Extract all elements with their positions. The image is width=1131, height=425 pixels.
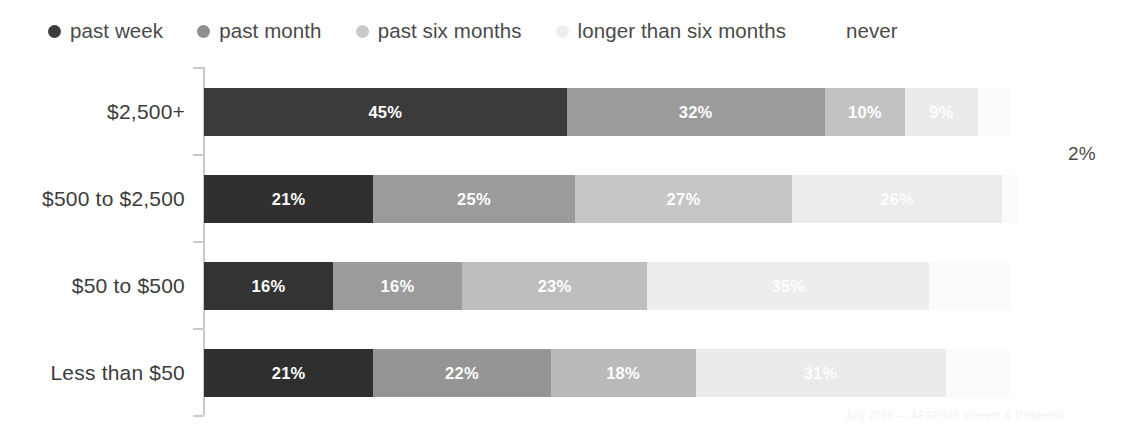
bar-segment-label: 32% xyxy=(679,104,713,121)
category-label: $500 to $2,500 xyxy=(42,175,185,223)
stacked-bar: 21%25%27%26%2% xyxy=(204,175,1018,223)
bar-segment[interactable]: 23% xyxy=(462,262,647,310)
bar-segment[interactable]: 31% xyxy=(696,349,946,397)
stacked-bar: 45%32%10%9%4% xyxy=(204,88,1010,136)
category-label: Less than $50 xyxy=(50,349,185,397)
axis-tick-mark xyxy=(193,415,204,417)
bar-segment[interactable]: 45% xyxy=(204,88,567,136)
legend-item-past-six-months[interactable]: past six months xyxy=(356,21,522,42)
bar-segment[interactable]: 25% xyxy=(373,175,575,223)
bar-segment[interactable]: 35% xyxy=(647,262,929,310)
category-label: $2,500+ xyxy=(107,88,185,136)
bar-segment[interactable]: 32% xyxy=(567,88,825,136)
bar-segment-label: 31% xyxy=(804,365,838,382)
bar-segment[interactable]: 18% xyxy=(551,349,696,397)
legend-item-label: past month xyxy=(219,21,321,42)
legend-swatch-icon xyxy=(356,25,369,38)
bar-segment-label: 22% xyxy=(445,365,479,382)
bar-segment-label: 21% xyxy=(272,191,306,208)
bar-segment-label: 25% xyxy=(457,191,491,208)
stacked-bar: 16%16%23%35%10% xyxy=(204,262,1010,310)
bar-segment-label: 16% xyxy=(380,278,414,295)
legend-item-past-month[interactable]: past month xyxy=(197,21,321,42)
bar-segment[interactable]: 21% xyxy=(204,349,373,397)
bar-segment-label: 35% xyxy=(771,278,805,295)
bar-segment[interactable]: 4% xyxy=(978,88,1010,136)
legend-item-label: longer than six months xyxy=(578,21,786,42)
bar-segment[interactable]: 27% xyxy=(575,175,793,223)
legend-item-past-week[interactable]: past week xyxy=(48,21,163,42)
bar-segment-label: 27% xyxy=(667,191,701,208)
bar-row: $500 to $2,50021%25%27%26%2%2% xyxy=(0,175,1131,223)
bar-segment-label: 21% xyxy=(272,365,306,382)
bar-segment-label: 45% xyxy=(368,104,402,121)
bar-segment[interactable]: 21% xyxy=(204,175,373,223)
bar-segment-label: 9% xyxy=(929,104,953,121)
bar-segment[interactable]: 8% xyxy=(946,349,1010,397)
legend-item-never[interactable]: never xyxy=(846,21,898,42)
bar-row: $50 to $50016%16%23%35%10% xyxy=(0,262,1131,310)
chart-plot-area: $2,500+45%32%10%9%4%$500 to $2,50021%25%… xyxy=(0,62,1131,412)
bar-segment[interactable]: 16% xyxy=(204,262,333,310)
bar-segment-label: 23% xyxy=(538,278,572,295)
chart-legend: past weekpast monthpast six monthslonger… xyxy=(0,10,1131,52)
bar-segment[interactable]: 10% xyxy=(929,262,1010,310)
bar-segment[interactable]: 26% xyxy=(792,175,1002,223)
axis-tick-mark xyxy=(193,328,204,330)
bar-segment-label: 18% xyxy=(606,365,640,382)
bar-row: $2,500+45%32%10%9%4% xyxy=(0,88,1131,136)
bar-segment[interactable]: 2% xyxy=(1002,175,1018,223)
legend-item-longer-than-six-months[interactable]: longer than six months xyxy=(556,21,786,42)
legend-swatch-icon xyxy=(197,25,210,38)
footer-credit: July 2019 — AFSP/US Interest & Dividends xyxy=(845,409,1065,421)
bar-segment[interactable]: 9% xyxy=(905,88,978,136)
legend-swatch-icon xyxy=(48,25,61,38)
legend-item-label: past week xyxy=(70,21,163,42)
bar-segment[interactable]: 22% xyxy=(373,349,550,397)
bar-segment-label: 16% xyxy=(252,278,286,295)
bar-segment-label: 26% xyxy=(880,191,914,208)
legend-item-label: never xyxy=(846,21,898,42)
legend-item-label: past six months xyxy=(378,21,522,42)
axis-tick-mark xyxy=(193,241,204,243)
axis-tick-mark xyxy=(193,154,204,156)
outside-value-label: 2% xyxy=(1068,143,1096,165)
bar-segment[interactable]: 16% xyxy=(333,262,462,310)
bar-segment[interactable]: 10% xyxy=(825,88,906,136)
legend-swatch-icon xyxy=(556,25,569,38)
stacked-bar: 21%22%18%31%8% xyxy=(204,349,1010,397)
category-label: $50 to $500 xyxy=(72,262,185,310)
axis-tick-mark xyxy=(193,67,204,69)
bar-row: Less than $5021%22%18%31%8% xyxy=(0,349,1131,397)
bar-segment-label: 10% xyxy=(848,104,882,121)
